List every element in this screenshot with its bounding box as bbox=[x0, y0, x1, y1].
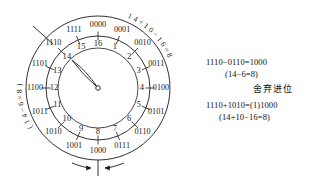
inner-ring-label: 9 bbox=[79, 123, 83, 133]
inner-ring-label: 14 bbox=[63, 51, 72, 61]
inner-ring-label: 13 bbox=[53, 65, 62, 75]
outer-ring-label: 1000 bbox=[90, 146, 106, 155]
outer-ring-label: 0001 bbox=[114, 25, 130, 34]
equation-line-2: (14−6=8) bbox=[225, 69, 258, 79]
outer-ring-label: 0110 bbox=[135, 127, 151, 136]
wrap-arrow-left-head bbox=[87, 166, 92, 170]
outer-ring-label: 0000 bbox=[90, 20, 106, 29]
clock-hub bbox=[96, 86, 101, 91]
inner-ring-label: 10 bbox=[63, 113, 72, 123]
equation-line-5: (14+10−16=8) bbox=[219, 112, 270, 122]
curved-annotation-char: ) bbox=[15, 83, 24, 86]
inner-ring-label: 15 bbox=[77, 41, 86, 51]
equation-line-4: 1110+1010=(1)1000 bbox=[206, 100, 278, 110]
wrap-arrow-right-head bbox=[105, 166, 110, 170]
outer-ring-label: 0101 bbox=[148, 107, 164, 116]
curved-annotation-char: 8 bbox=[15, 89, 24, 93]
outer-ring-label: 1111 bbox=[66, 25, 81, 34]
curved-annotation-char: 8 bbox=[165, 52, 175, 59]
inner-ring-label: 3 bbox=[137, 65, 141, 75]
outer-ring-label: 1010 bbox=[45, 127, 61, 136]
inner-ring-label: 11 bbox=[53, 99, 61, 109]
inner-ring-label: 7 bbox=[113, 123, 118, 133]
curved-annotation-char: = bbox=[15, 95, 24, 100]
outer-ring-label: 0011 bbox=[148, 59, 164, 68]
inner-ring-label: 4 bbox=[140, 82, 145, 92]
curved-annotation-char: − bbox=[17, 107, 27, 114]
outer-ring-label: 0010 bbox=[134, 38, 150, 47]
inner-ring-label: 6 bbox=[127, 113, 132, 123]
outer-ring-label: 1100 bbox=[27, 83, 43, 92]
outer-ring-label: 1101 bbox=[32, 59, 48, 68]
inner-ring-label: 5 bbox=[137, 99, 141, 109]
inner-ring-label: 2 bbox=[127, 51, 131, 61]
inner-ring-label: 12 bbox=[50, 82, 59, 92]
outer-ring-label: 1001 bbox=[66, 141, 82, 150]
discard-carry-note: 舍弃进位 bbox=[253, 82, 293, 95]
equation-line-1: 1110−0110=1000 bbox=[206, 57, 267, 67]
outer-ring-label: 1011 bbox=[32, 107, 48, 116]
inner-ring-label: 1 bbox=[113, 41, 117, 51]
inner-ring-label: 8 bbox=[96, 126, 100, 136]
outer-ring-label: 0100 bbox=[153, 83, 169, 92]
inner-ring-label: 16 bbox=[94, 38, 103, 48]
clock-hand bbox=[72, 60, 98, 88]
curved-annotation-char: 6 bbox=[16, 101, 26, 107]
outer-ring-label: 0111 bbox=[114, 141, 130, 150]
